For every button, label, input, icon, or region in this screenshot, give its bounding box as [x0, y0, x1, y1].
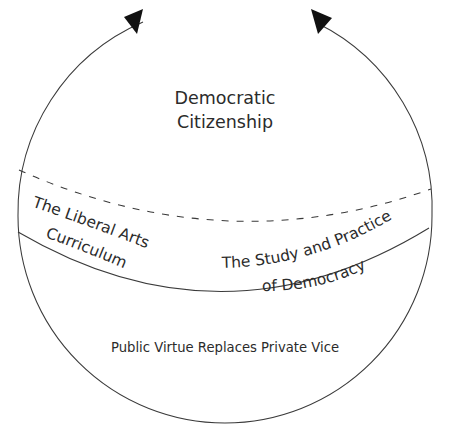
title-line-2: Citizenship — [177, 112, 273, 132]
figure-root: Democratic Citizenship The Liberal Arts … — [0, 0, 450, 432]
circular-diagram: Democratic Citizenship The Liberal Arts … — [0, 0, 450, 432]
bottom-band-label: Public Virtue Replaces Private Vice — [111, 340, 339, 355]
arrow-up-left-icon — [311, 9, 332, 34]
right-segment-line-1: The Study and Practice — [221, 207, 395, 272]
title-line-1: Democratic — [175, 88, 276, 108]
